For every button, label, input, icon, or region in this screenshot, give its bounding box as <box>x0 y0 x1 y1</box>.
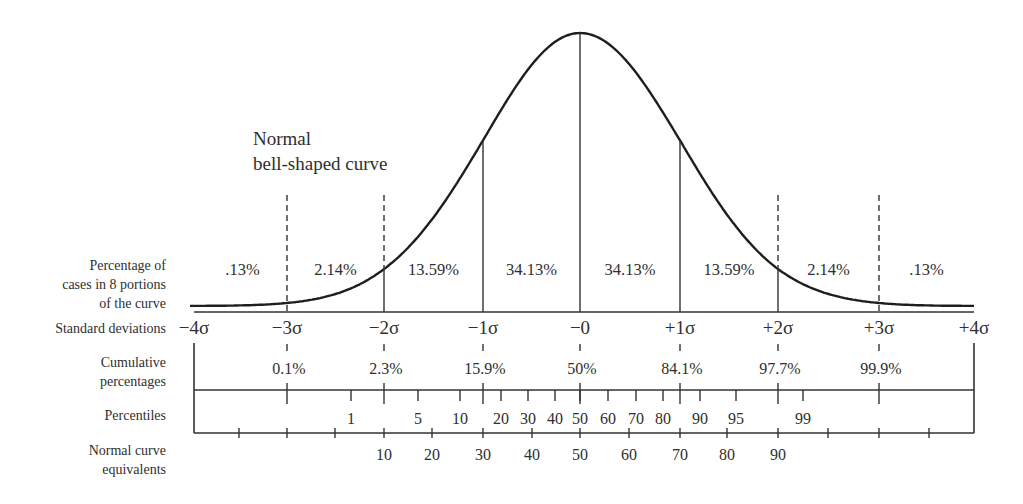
nce-scale: 102030405060708090 <box>194 428 974 463</box>
row-label-cumulative: Cumulative <box>101 355 166 370</box>
percentile-scale: 151020304050607080909599 <box>347 390 811 427</box>
sd-label: −1σ <box>468 317 498 338</box>
portion-percentage: 34.13% <box>506 260 557 279</box>
row-label-portions: of the curve <box>99 296 166 311</box>
standard-deviation-labels: −4σ−3σ−2σ−1σ−0+1σ+2σ+3σ+4σ <box>179 317 989 338</box>
portion-percentage: 34.13% <box>605 260 656 279</box>
portion-percentage: 13.59% <box>408 260 459 279</box>
row-label-portions: cases in 8 portions <box>62 277 166 292</box>
row-label-cumulative: percentages <box>100 374 166 389</box>
percentile-value: 99 <box>795 410 811 427</box>
row-label-standard-deviations: Standard deviations <box>55 321 166 336</box>
curve-title-line2: bell-shaped curve <box>253 153 388 174</box>
curve-title-line1: Normal <box>253 128 311 149</box>
sd-label: +2σ <box>763 317 793 338</box>
percentile-value: 70 <box>628 410 644 427</box>
row-label-nce: Normal curve <box>89 443 166 458</box>
row-label-percentiles: Percentiles <box>105 408 166 423</box>
cumulative-percentage: 15.9% <box>464 360 505 377</box>
percentile-value: 60 <box>600 410 616 427</box>
percentile-value: 90 <box>692 410 708 427</box>
sd-label: +4σ <box>959 317 989 338</box>
cumulative-percentage: 0.1% <box>272 360 305 377</box>
percentile-value: 95 <box>728 410 744 427</box>
percentile-value: 20 <box>493 410 509 427</box>
nce-value: 50 <box>572 446 588 463</box>
nce-value: 40 <box>524 446 540 463</box>
percentile-value: 40 <box>547 410 563 427</box>
sd-label: −4σ <box>179 317 209 338</box>
nce-value: 60 <box>621 446 637 463</box>
cumulative-percentage: 50% <box>567 360 596 377</box>
nce-value: 90 <box>770 446 786 463</box>
normal-curve-diagram: Normal bell-shaped curve Percentage of c… <box>0 0 1023 504</box>
row-label-portions: Percentage of <box>89 258 166 273</box>
nce-value: 30 <box>475 446 491 463</box>
portion-percentage: 2.14% <box>314 260 357 279</box>
sd-label: −0 <box>570 317 590 338</box>
sd-label: −3σ <box>272 317 302 338</box>
nce-value: 10 <box>376 446 392 463</box>
cumulative-percentage: 97.7% <box>759 360 800 377</box>
sd-label: −2σ <box>369 317 399 338</box>
percentile-value: 5 <box>414 410 422 427</box>
percentile-value: 50 <box>572 410 588 427</box>
nce-value: 20 <box>424 446 440 463</box>
row-label-nce: equivalents <box>102 462 166 477</box>
sd-label: +1σ <box>665 317 695 338</box>
percentile-value: 30 <box>520 410 536 427</box>
percentile-value: 80 <box>655 410 671 427</box>
sd-label: +3σ <box>864 317 894 338</box>
percentile-value: 1 <box>347 410 355 427</box>
portion-percentage: 13.59% <box>704 260 755 279</box>
nce-value: 80 <box>719 446 735 463</box>
portion-percentage: 2.14% <box>807 260 850 279</box>
cumulative-percentage: 99.9% <box>860 360 901 377</box>
cumulative-percentage: 2.3% <box>369 360 402 377</box>
portion-percentages: .13%2.14%13.59%34.13%34.13%13.59%2.14%.1… <box>225 260 944 279</box>
cumulative-percentage: 84.1% <box>661 360 702 377</box>
nce-value: 70 <box>672 446 688 463</box>
portion-percentage: .13% <box>909 260 944 279</box>
portion-percentage: .13% <box>225 260 260 279</box>
percentile-value: 10 <box>452 410 468 427</box>
